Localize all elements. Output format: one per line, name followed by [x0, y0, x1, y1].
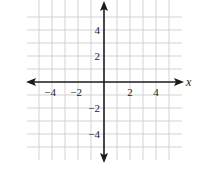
- x-tick-labels: −4−224: [44, 86, 159, 98]
- x-axis-label: x: [185, 75, 192, 89]
- x-tick-label: 2: [127, 86, 133, 98]
- y-tick-label: −4: [88, 128, 100, 140]
- coordinate-plane: x −4−224 42−2−4: [0, 0, 199, 173]
- x-tick-label: −2: [70, 86, 82, 98]
- y-tick-label: −2: [88, 102, 100, 114]
- x-tick-label: −4: [44, 86, 56, 98]
- axes: [26, 1, 184, 163]
- y-tick-label: 4: [95, 24, 101, 36]
- x-tick-label: 4: [153, 86, 159, 98]
- y-tick-label: 2: [95, 50, 101, 62]
